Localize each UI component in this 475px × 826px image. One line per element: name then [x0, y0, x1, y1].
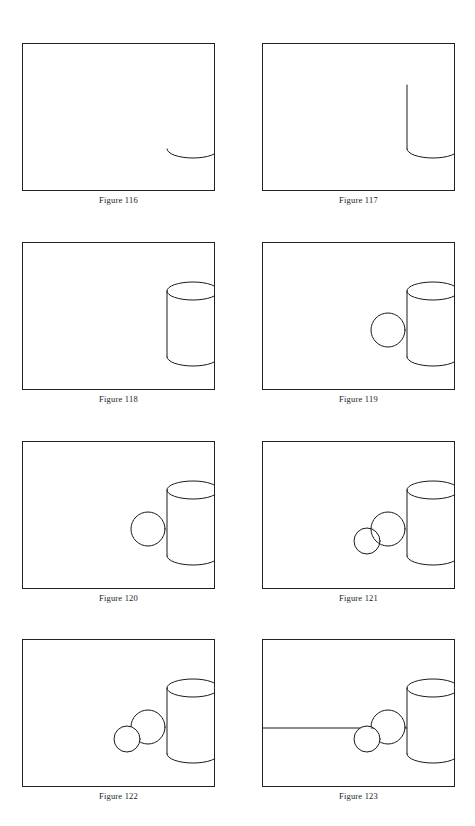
figure-panel-119: Figure 119 — [262, 242, 455, 405]
cylinder — [167, 282, 215, 366]
cylinder-base-arc — [167, 357, 215, 366]
cylinder — [407, 282, 455, 366]
figure-caption: Figure 122 — [22, 791, 215, 802]
figure-caption: Figure 118 — [22, 394, 215, 405]
cylinder — [167, 679, 215, 763]
large-sphere — [371, 710, 405, 744]
cylinder-base-arc — [407, 149, 455, 158]
figure-frame-121 — [262, 441, 455, 589]
cylinder-top-ellipse — [407, 481, 455, 499]
small-sphere — [354, 726, 380, 752]
cylinder — [167, 481, 215, 565]
large-sphere — [131, 512, 165, 546]
cylinder — [407, 481, 455, 565]
figure-panel-116: Figure 116 — [22, 43, 215, 206]
figure-caption: Figure 123 — [262, 791, 455, 802]
picture-frame — [23, 44, 215, 191]
figure-frame-123 — [262, 639, 455, 787]
figure-caption: Figure 119 — [262, 394, 455, 405]
figure-panel-120: Figure 120 — [22, 441, 215, 604]
figure-panel-123: Figure 123 — [262, 639, 455, 802]
large-sphere-construction-circle — [371, 313, 405, 347]
cylinder-top-ellipse — [167, 481, 215, 499]
cylinder-base-arc — [407, 754, 455, 763]
picture-frame — [263, 640, 455, 787]
small-sphere — [114, 726, 140, 752]
cylinder-base-arc — [407, 357, 455, 366]
cylinder-base-arc — [167, 754, 215, 763]
figure-frame-122 — [22, 639, 215, 787]
picture-frame — [263, 442, 455, 589]
figure-frame-116 — [22, 43, 215, 191]
figure-frame-118 — [22, 242, 215, 390]
figure-caption: Figure 120 — [22, 593, 215, 604]
figure-frame-119 — [262, 242, 455, 390]
cylinder-base-arc — [407, 556, 455, 565]
cylinder-base-arc — [167, 556, 215, 565]
figure-frame-120 — [22, 441, 215, 589]
picture-frame — [263, 44, 455, 191]
figure-sheet: Figure 116 Figure 117 — [0, 0, 475, 826]
picture-frame — [23, 442, 215, 589]
figure-panel-118: Figure 118 — [22, 242, 215, 405]
cylinder-top-ellipse — [167, 282, 215, 300]
large-sphere — [131, 710, 165, 744]
figure-caption: Figure 121 — [262, 593, 455, 604]
figure-panel-122: Figure 122 — [22, 639, 215, 802]
cylinder-top-ellipse — [407, 679, 455, 697]
picture-frame — [263, 243, 455, 390]
figure-panel-121: Figure 121 — [262, 441, 455, 604]
figure-panel-117: Figure 117 — [262, 43, 455, 206]
figure-caption: Figure 116 — [22, 195, 215, 206]
picture-frame — [23, 243, 215, 390]
cylinder — [407, 679, 455, 763]
picture-frame — [23, 640, 215, 787]
figure-frame-117 — [262, 43, 455, 191]
cylinder-base-arc — [167, 149, 215, 158]
large-sphere — [371, 512, 405, 546]
cylinder-top-ellipse — [407, 282, 455, 300]
cylinder-top-ellipse — [167, 679, 215, 697]
figure-caption: Figure 117 — [262, 195, 455, 206]
